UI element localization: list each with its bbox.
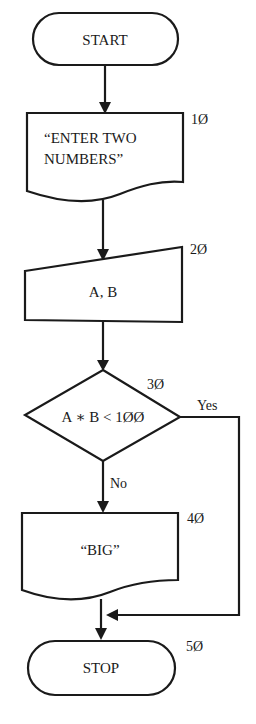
- line-number-20: 2Ø: [190, 242, 207, 257]
- yes-branch-label: Yes: [197, 398, 217, 413]
- start-label: START: [82, 32, 127, 48]
- no-branch-label: No: [110, 476, 127, 491]
- connector-big-to-stop: [95, 599, 107, 640]
- connector-start-to-prompt: [99, 65, 111, 114]
- prompt-text-line-1: “ENTER TWO: [44, 130, 137, 146]
- arrowhead-icon: [95, 628, 107, 640]
- stop-terminal: STOP 5Ø: [28, 639, 203, 695]
- decision-condition: A ∗ B < 1ØØ: [62, 409, 145, 425]
- arrowhead-icon: [97, 501, 109, 513]
- arrowhead-icon: [106, 609, 118, 621]
- line-number-40: 4Ø: [187, 511, 204, 526]
- flowchart-canvas: START “ENTER TWO NUMBERS” 1Ø A, B 2Ø: [0, 0, 256, 724]
- start-terminal: START: [33, 13, 178, 65]
- connector-no-branch: No: [97, 461, 127, 513]
- prompt-output-document: “ENTER TWO NUMBERS” 1Ø: [27, 112, 208, 201]
- prompt-text-line-2: NUMBERS”: [44, 151, 123, 167]
- decision-diamond: A ∗ B < 1ØØ 3Ø: [25, 370, 180, 461]
- stop-label: STOP: [83, 660, 119, 676]
- big-output-document: “BIG” 4Ø: [22, 511, 204, 599]
- line-number-30: 3Ø: [147, 377, 164, 392]
- big-output-text: “BIG”: [80, 542, 119, 558]
- input-ab-label: A, B: [89, 284, 117, 300]
- input-ab-manual-input: A, B 2Ø: [25, 242, 207, 322]
- connector-prompt-to-input: [97, 200, 109, 261]
- line-number-10: 1Ø: [191, 112, 208, 127]
- connector-input-to-decision: [97, 322, 109, 371]
- line-number-50: 5Ø: [186, 639, 203, 654]
